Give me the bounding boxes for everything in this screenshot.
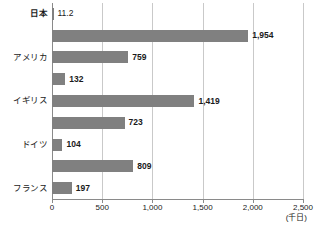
x-tick-label: 0 xyxy=(50,204,54,212)
bar-4[interactable] xyxy=(52,95,194,107)
x-tick-label: 2,500 xyxy=(293,204,313,212)
bar-8[interactable] xyxy=(52,182,72,194)
bar-value-label-1: 1,954 xyxy=(252,31,273,40)
bar-3[interactable] xyxy=(52,73,65,85)
bar-7[interactable] xyxy=(52,160,133,172)
chart-row: スウェーデン xyxy=(0,134,315,156)
chart-row: イタリア xyxy=(0,112,315,134)
bar-value-label-7: 809 xyxy=(137,162,151,171)
bar-1[interactable] xyxy=(52,30,248,42)
x-tick-label: 2,000 xyxy=(243,204,263,212)
bar-value-label-2: 759 xyxy=(132,53,146,62)
bar-value-label-4: 1,419 xyxy=(198,97,219,106)
x-tick-label: 500 xyxy=(96,204,109,212)
x-axis-line xyxy=(52,199,303,200)
x-tick-label: 1,000 xyxy=(142,204,162,212)
bar-6[interactable] xyxy=(52,139,62,151)
x-tick-label: 1,500 xyxy=(193,204,213,212)
chart-row: イギリス xyxy=(0,47,315,69)
bar-value-label-3: 132 xyxy=(69,75,83,84)
chart-row: ドイツ xyxy=(0,68,315,90)
bar-value-label-6: 104 xyxy=(66,140,80,149)
bar-value-label-5: 723 xyxy=(129,118,143,127)
axis-unit-label: (千日) xyxy=(286,214,307,222)
bar-value-label-8: 197 xyxy=(76,184,90,193)
bar-2[interactable] xyxy=(52,51,128,63)
chart-row: 日本 xyxy=(0,3,315,25)
category-label-0: 日本 xyxy=(0,9,48,18)
bar-5[interactable] xyxy=(52,117,125,129)
chart-row: 韓国 xyxy=(0,155,315,177)
chart-row: オーストラリア xyxy=(0,177,315,199)
bar-chart: 日本アメリカイギリスドイツフランスイタリアスウェーデン韓国オーストラリア (千日… xyxy=(0,0,315,226)
bar-value-label-0: 11.2 xyxy=(58,9,74,18)
bar-0[interactable] xyxy=(52,8,54,20)
